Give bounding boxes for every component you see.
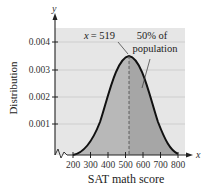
x-tick-label: 800 (171, 160, 186, 170)
chart: y x 0.004 0.003 0.002 0.001 200 300 400 … (0, 0, 210, 188)
y-tick-label: 0.003 (29, 65, 51, 75)
x-tick-label: 700 (153, 160, 168, 170)
mean-symbol: x (83, 30, 89, 41)
y-axis-arrow-icon (53, 13, 58, 20)
pct-annotation-line2: population (133, 43, 179, 54)
y-tick-label: 0.001 (29, 119, 51, 129)
mean-annotation: x= 519 (83, 30, 115, 41)
x-axis-arrow-icon (186, 153, 193, 158)
y-tick-label: 0.004 (29, 37, 51, 47)
pct-annotation-line1: 50% of (137, 30, 168, 41)
y-axis-name: y (51, 3, 57, 14)
mean-value: = 519 (91, 30, 115, 41)
x-tick-label: 300 (83, 160, 98, 170)
y-axis-label: Distribution (7, 61, 19, 115)
x-axis-name: x (195, 149, 201, 160)
x-tick-label: 600 (136, 160, 151, 170)
x-tick-label: 400 (101, 160, 116, 170)
y-tick-label: 0.002 (29, 92, 51, 102)
x-tick-label: 500 (118, 160, 133, 170)
x-tick-label: 200 (66, 160, 81, 170)
x-axis-label: SAT math score (88, 172, 164, 186)
